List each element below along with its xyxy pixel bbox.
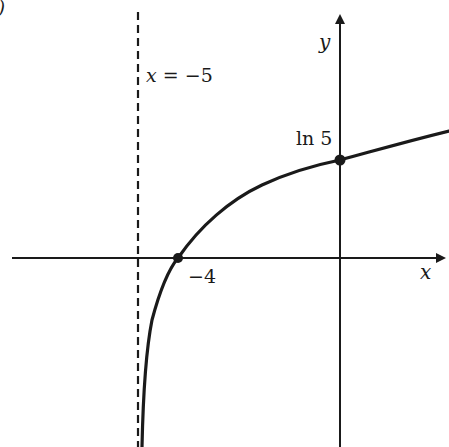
- graph-figure: ) x y x = −5 −4 ln 5: [0, 0, 449, 447]
- corner-mark: ): [0, 0, 5, 18]
- log-curve: [142, 131, 449, 447]
- y-axis-label: y: [318, 30, 331, 54]
- asymptote-label: x = −5: [146, 64, 213, 86]
- x-axis-label: x: [420, 260, 431, 284]
- y-intercept-label: ln 5: [296, 127, 332, 149]
- x-intercept-label: −4: [188, 265, 216, 287]
- x-intercept-point: [173, 253, 183, 263]
- y-intercept-point: [335, 155, 346, 166]
